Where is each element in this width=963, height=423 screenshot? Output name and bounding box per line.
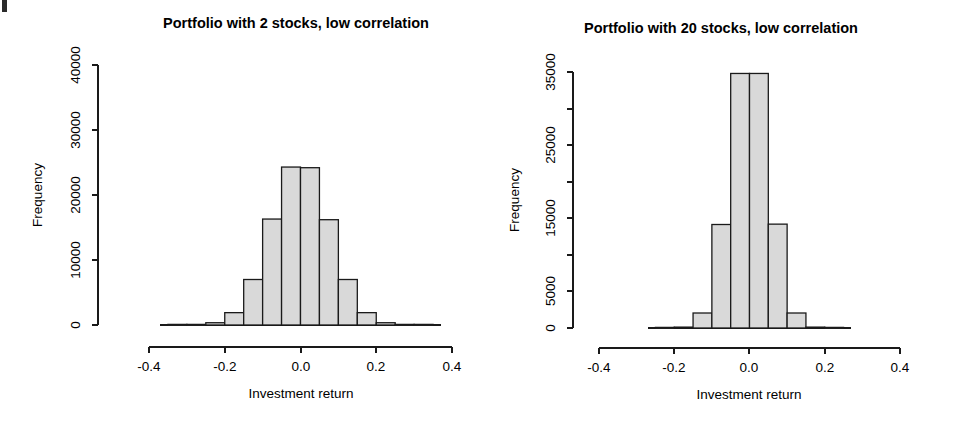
chart-panel-right: Portfolio with 20 stocks, low correlatio… [481, 0, 963, 423]
histogram-bar [712, 225, 731, 328]
left-y-ticklabel-0: 0 [68, 321, 83, 329]
histogram-bar [806, 327, 825, 328]
left-y-ticklabel-20000: 20000 [68, 176, 83, 214]
histogram-bar [414, 324, 433, 325]
left-x-axis-title: Investment return [248, 386, 353, 401]
histogram-bar [225, 313, 244, 325]
histogram-bar [693, 313, 712, 328]
left-plot-svg: Portfolio with 2 stocks, low correlation… [0, 0, 481, 423]
histogram-bar [301, 168, 320, 325]
left-y-axis-title: Frequency [30, 163, 45, 227]
right-x-ticklabel-0.4: 0.4 [891, 360, 910, 375]
right-x-ticklabel-0.0: 0.0 [740, 360, 759, 375]
histogram-bar [357, 313, 376, 325]
right-plot-svg: Portfolio with 20 stocks, low correlatio… [481, 0, 963, 423]
histogram-bar [187, 324, 206, 325]
left-plot-title: Portfolio with 2 stocks, low correlation [163, 15, 429, 31]
histogram-bar [750, 73, 769, 328]
right-histogram-bars [648, 73, 851, 328]
histogram-bar [263, 219, 282, 325]
right-x-ticklabel-0.2: 0.2 [816, 360, 835, 375]
left-y-ticklabel-10000: 10000 [68, 241, 83, 279]
right-y-ticklabel-25000: 25000 [543, 126, 558, 164]
left-x-ticklabel-0.0: 0.0 [292, 359, 311, 374]
left-y-ticklabel-30000: 30000 [68, 111, 83, 149]
histogram-bar [395, 324, 414, 325]
histogram-bar [787, 313, 806, 328]
right-x-axis-title: Investment return [696, 387, 801, 402]
histogram-bar [206, 323, 225, 325]
right-x-ticklabel--0.4: -0.4 [587, 360, 611, 375]
right-y-ticklabel-0: 0 [543, 324, 558, 332]
left-x-ticklabel--0.2: -0.2 [213, 359, 236, 374]
left-x-ticklabel-0.2: 0.2 [367, 359, 386, 374]
histogram-bar [825, 327, 844, 328]
histogram-bar [168, 324, 187, 325]
histogram-bar [731, 73, 750, 328]
figure-canvas: Portfolio with 2 stocks, low correlation… [0, 0, 963, 423]
right-y-ticklabel-5000: 5000 [543, 276, 558, 306]
right-y-axis-title: Frequency [507, 168, 522, 232]
right-plot-title: Portfolio with 20 stocks, low correlatio… [584, 20, 858, 36]
right-y-ticklabel-15000: 15000 [543, 199, 558, 237]
histogram-bar [655, 327, 674, 328]
histogram-bar [338, 280, 357, 326]
histogram-bar [244, 280, 263, 326]
histogram-bar [674, 327, 693, 328]
histogram-bar [376, 323, 395, 325]
histogram-bar [319, 220, 338, 325]
left-histogram-bars [160, 167, 440, 325]
histogram-bar [768, 224, 787, 328]
left-x-ticklabel-0.4: 0.4 [443, 359, 462, 374]
histogram-bar [282, 167, 301, 325]
left-x-ticklabel--0.4: -0.4 [137, 359, 161, 374]
right-x-ticklabel--0.2: -0.2 [662, 360, 685, 375]
right-y-ticklabel-35000: 35000 [543, 53, 558, 91]
chart-panel-left: Portfolio with 2 stocks, low correlation… [0, 0, 481, 423]
left-y-ticklabel-40000: 40000 [68, 46, 83, 84]
